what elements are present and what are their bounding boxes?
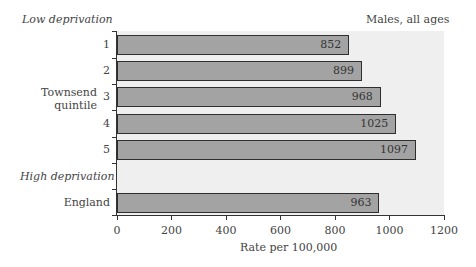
category-label: 2 bbox=[40, 64, 110, 77]
x-tick bbox=[444, 215, 445, 220]
x-tick-label: 1000 bbox=[376, 224, 404, 237]
bar-value-label: 899 bbox=[312, 64, 354, 77]
y-tick bbox=[112, 84, 117, 85]
x-axis-label: Rate per 100,000 bbox=[240, 241, 337, 254]
x-tick bbox=[171, 215, 172, 220]
bar-value-label: 852 bbox=[299, 38, 341, 51]
y-tick bbox=[112, 163, 117, 164]
group-label-line2: quintile bbox=[30, 99, 97, 112]
y-tick bbox=[112, 58, 117, 59]
category-label: England bbox=[40, 196, 110, 209]
x-tick-label: 0 bbox=[114, 224, 121, 237]
y-tick bbox=[112, 31, 117, 32]
x-tick-label: 200 bbox=[161, 224, 182, 237]
bar-value-label: 968 bbox=[331, 90, 373, 103]
x-tick-label: 800 bbox=[325, 224, 346, 237]
x-tick-label: 600 bbox=[270, 224, 291, 237]
bar-value-label: 1097 bbox=[366, 143, 408, 156]
x-tick bbox=[280, 215, 281, 220]
category-label: 5 bbox=[40, 143, 110, 156]
x-tick bbox=[335, 215, 336, 220]
y-tick bbox=[112, 110, 117, 111]
low-deprivation-label: Low deprivation bbox=[22, 13, 113, 26]
x-tick-label: 1200 bbox=[430, 224, 458, 237]
townsend-quintile-label: Townsend quintile bbox=[30, 86, 97, 112]
group-label-line1: Townsend bbox=[30, 86, 97, 99]
category-label: 1 bbox=[40, 38, 110, 51]
x-tick bbox=[389, 215, 390, 220]
bar-value-label: 1025 bbox=[346, 117, 388, 130]
chart-title: Males, all ages bbox=[366, 13, 449, 26]
y-tick bbox=[112, 189, 117, 190]
y-tick bbox=[112, 215, 117, 216]
y-tick bbox=[112, 137, 117, 138]
x-tick-label: 400 bbox=[216, 224, 237, 237]
category-label: 4 bbox=[40, 117, 110, 130]
bar-value-label: 963 bbox=[329, 196, 371, 209]
high-deprivation-label: High deprivation bbox=[20, 170, 115, 183]
x-tick bbox=[226, 215, 227, 220]
